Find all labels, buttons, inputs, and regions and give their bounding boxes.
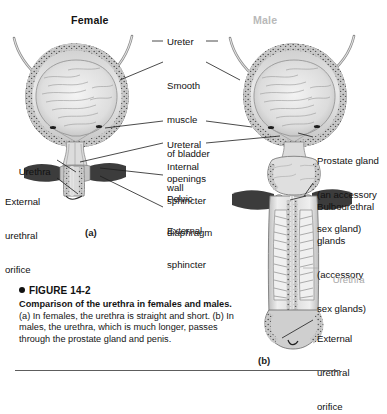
label-external-sphincter: External sphincter bbox=[167, 202, 206, 293]
panel-title-female: Female bbox=[71, 14, 109, 26]
label-ureter-l1: Ureter bbox=[167, 36, 194, 47]
label-bulbo-l1: Bulbourethral bbox=[317, 201, 374, 212]
label-euo-f-l1: External bbox=[5, 196, 40, 207]
caption-rule bbox=[15, 370, 340, 371]
label-euo-m-l3: orifice bbox=[317, 401, 352, 412]
figure-caption-body: Comparison of the urethra in females and… bbox=[19, 299, 237, 345]
label-euo-f-l2: urethral bbox=[5, 230, 40, 241]
label-ureter: Ureter bbox=[167, 36, 194, 47]
figure-caption-heading: FIGURE 14-2 bbox=[19, 285, 237, 296]
figure-number: FIGURE 14-2 bbox=[29, 285, 91, 296]
label-bulbo-l2: glands bbox=[317, 235, 374, 246]
label-external-sphincter-l1: External bbox=[167, 225, 206, 236]
figure-caption: FIGURE 14-2 Comparison of the urethra in… bbox=[19, 285, 237, 345]
panel-title-male: Male bbox=[253, 14, 277, 26]
figure-caption-text: (a) In females, the urethra is straight … bbox=[19, 311, 234, 344]
label-urethra-male: Urethra bbox=[322, 263, 365, 297]
figure-caption-title: Comparison of the urethra in females and… bbox=[19, 299, 232, 309]
label-euo-m-l2: urethral bbox=[317, 367, 352, 378]
panel-mark-b: (b) bbox=[258, 355, 270, 366]
label-prostate-l1: Prostate gland bbox=[317, 155, 379, 166]
label-smooth-muscle-l1: Smooth bbox=[167, 80, 210, 91]
label-euo-f-l3: orifice bbox=[5, 264, 40, 275]
panel-mark-a: (a) bbox=[85, 227, 97, 238]
label-euo-m-l1: External bbox=[317, 333, 352, 344]
label-urethra-male-l1: Urethra bbox=[333, 274, 365, 285]
label-external-sphincter-l2: sphincter bbox=[167, 259, 206, 270]
bullet-icon bbox=[19, 287, 25, 293]
label-external-urethral-orifice-male: External urethral orifice bbox=[317, 310, 352, 414]
label-external-urethral-orifice-female: External urethral orifice bbox=[5, 173, 40, 298]
